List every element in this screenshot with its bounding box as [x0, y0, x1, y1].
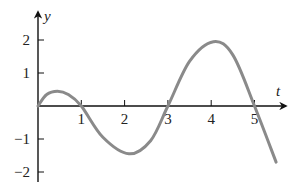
t-axis-label: t	[276, 83, 281, 99]
x-tick-label: 2	[121, 111, 129, 127]
x-tick-label: 1	[78, 111, 86, 127]
y-axis-label: y	[42, 8, 51, 24]
y-tick-label: 2	[23, 32, 31, 48]
y-tick-label: 1	[23, 65, 31, 81]
chart: 12345 21−1−2 y t	[0, 0, 297, 186]
y-tick-label: −2	[14, 164, 30, 180]
data-curve	[38, 42, 276, 163]
y-tick-label: −1	[14, 131, 30, 147]
x-tick-label: 4	[207, 111, 215, 127]
